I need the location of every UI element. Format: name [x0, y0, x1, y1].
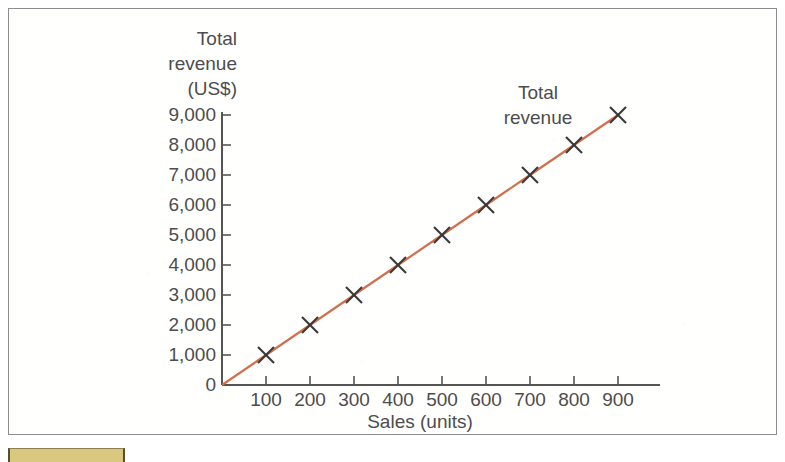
- data-point-marker: [258, 347, 274, 363]
- chart-plot-area: Total revenue (US$) Total revenue 9,000 …: [0, 0, 785, 462]
- chart-canvas: [0, 0, 785, 462]
- series-markers-total-revenue: [258, 107, 626, 363]
- y-axis-ticks: [222, 115, 231, 385]
- data-point-marker: [566, 137, 582, 153]
- data-point-marker: [434, 227, 450, 243]
- data-point-marker: [346, 287, 362, 303]
- data-point-marker: [610, 107, 626, 123]
- series-line-total-revenue: [222, 115, 618, 385]
- data-point-marker: [302, 317, 318, 333]
- chart-axes: [222, 112, 660, 385]
- x-axis-ticks: [266, 376, 618, 385]
- page-color-swatch: [8, 448, 125, 462]
- x-axis-title: Sales (units): [222, 409, 618, 434]
- data-point-marker: [478, 197, 494, 213]
- data-point-marker: [522, 167, 538, 183]
- data-point-marker: [390, 257, 406, 273]
